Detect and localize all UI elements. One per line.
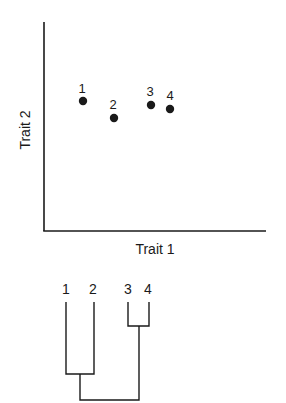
figure: Trait 1 Trait 2 1 2 3 4 1 2 3 4 — [0, 0, 286, 403]
data-point: 4 — [166, 88, 174, 113]
point-label: 2 — [109, 97, 116, 112]
scatter-plot: Trait 1 Trait 2 1 2 3 4 — [17, 22, 266, 257]
leaf-label: 4 — [144, 281, 152, 297]
point-marker — [79, 97, 87, 105]
point-label: 4 — [166, 88, 173, 103]
branch-3-4 — [128, 302, 149, 326]
data-point: 3 — [146, 84, 155, 109]
branch-1-2 — [66, 302, 94, 374]
point-label: 3 — [146, 84, 153, 99]
leaf-label: 2 — [89, 281, 97, 297]
point-marker — [166, 105, 174, 113]
point-label: 1 — [78, 81, 85, 96]
data-point: 1 — [78, 81, 87, 105]
data-point: 2 — [109, 97, 118, 122]
leaf-label: 3 — [124, 281, 132, 297]
leaf-label: 1 — [62, 281, 70, 297]
dendrogram: 1 2 3 4 — [62, 281, 152, 400]
y-axis-label: Trait 2 — [17, 110, 33, 149]
x-axis-label: Trait 1 — [135, 241, 174, 257]
point-marker — [110, 114, 118, 122]
branch-root — [80, 326, 139, 400]
point-marker — [147, 101, 155, 109]
